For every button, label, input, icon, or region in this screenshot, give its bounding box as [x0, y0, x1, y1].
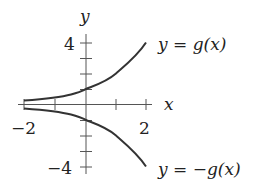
curve-neg-g — [24, 108, 146, 166]
axes — [18, 34, 152, 174]
chart: y x −2 2 4 −4 y = g(x) y = −g(x) — [0, 0, 263, 191]
curve-neg-g-label: y = −g(x) — [157, 159, 241, 179]
curve-g-label: y = g(x) — [157, 34, 226, 54]
curve-g — [24, 43, 146, 101]
y-max-label: 4 — [64, 34, 75, 54]
y-axis-label: y — [79, 6, 90, 26]
x-axis-label: x — [164, 94, 174, 114]
x-min-label: −2 — [11, 118, 36, 138]
y-min-label: −4 — [47, 158, 72, 178]
x-max-label: 2 — [139, 118, 150, 138]
